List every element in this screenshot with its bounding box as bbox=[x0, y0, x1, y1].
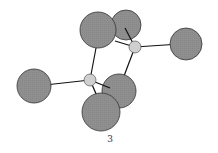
figure-label: 3 bbox=[105, 134, 115, 144]
center-bottom-atom bbox=[84, 74, 96, 86]
bridge-top-atom bbox=[80, 12, 116, 48]
bond bbox=[45, 80, 90, 85]
molecule-diagram bbox=[0, 0, 218, 153]
terminal-right-atom bbox=[170, 28, 202, 60]
bridge-front-bottom-atom bbox=[82, 93, 120, 131]
terminal-left-atom bbox=[17, 69, 51, 103]
center-top-atom bbox=[129, 41, 141, 53]
